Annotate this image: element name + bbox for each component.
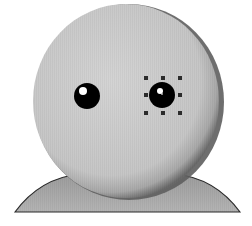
handle-bottom-right[interactable] bbox=[178, 111, 182, 115]
avatar-illustration bbox=[0, 0, 252, 226]
handle-top-center[interactable] bbox=[161, 76, 165, 80]
avatar-canvas bbox=[0, 0, 252, 226]
right-eye[interactable] bbox=[149, 82, 175, 108]
handle-top-left[interactable] bbox=[144, 76, 148, 80]
handle-bottom-left[interactable] bbox=[144, 111, 148, 115]
handle-top-right[interactable] bbox=[178, 76, 182, 80]
handle-bottom-center[interactable] bbox=[161, 111, 165, 115]
left-eye[interactable] bbox=[74, 83, 100, 109]
handle-middle-left[interactable] bbox=[144, 93, 148, 97]
head[interactable] bbox=[33, 4, 224, 200]
left-eye-highlight bbox=[79, 87, 87, 95]
handle-middle-right[interactable] bbox=[178, 93, 182, 97]
